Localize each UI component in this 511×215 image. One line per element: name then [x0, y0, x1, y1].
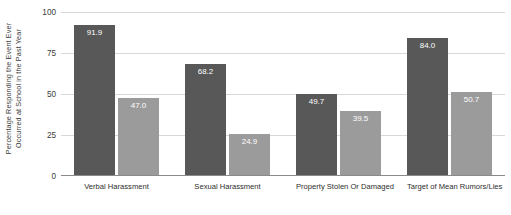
y-tick-50: 50	[30, 90, 56, 99]
x-label-sexual-harassment: Sexual Harassment	[185, 182, 270, 191]
bar-value-label: 47.0	[118, 101, 159, 110]
bar-series-container: 91.9 47.0 68.2 24.9 49.7 39.5	[61, 12, 505, 175]
bar-value-label: 91.9	[74, 28, 115, 37]
y-tick-75: 75	[30, 49, 56, 58]
x-label-verbal-harassment: Verbal Harassment	[74, 182, 159, 191]
bar-chart: Percentage Responding the Event Ever Occ…	[0, 0, 511, 215]
bar-dark-target-of-mean-rumors-lies[interactable]: 84.0	[407, 38, 448, 175]
y-tick-100: 100	[30, 8, 56, 17]
y-tick-0: 0	[30, 172, 56, 181]
y-tick-25: 25	[30, 131, 56, 140]
bar-group-verbal-harassment: 91.9 47.0	[74, 25, 159, 175]
bar-light-property-stolen-or-damaged[interactable]: 39.5	[340, 111, 381, 175]
bar-dark-sexual-harassment[interactable]: 68.2	[185, 64, 226, 175]
y-axis-title-line-2: Occurred at School in the Past Year	[14, 29, 24, 148]
bar-value-label: 24.9	[229, 137, 270, 146]
bar-group-property-stolen-or-damaged: 49.7 39.5	[296, 94, 381, 175]
bar-dark-property-stolen-or-damaged[interactable]: 49.7	[296, 94, 337, 175]
bar-light-verbal-harassment[interactable]: 47.0	[118, 98, 159, 175]
bar-value-label: 84.0	[407, 41, 448, 50]
y-axis-title: Percentage Responding the Event Ever Occ…	[2, 1, 26, 176]
x-label-property-stolen-or-damaged: Property Stolen Or Damaged	[296, 182, 381, 191]
x-axis-line	[61, 175, 505, 176]
bar-dark-verbal-harassment[interactable]: 91.9	[74, 25, 115, 175]
plot-area: 91.9 47.0 68.2 24.9 49.7 39.5	[61, 12, 505, 176]
y-axis-ticks: 100 75 50 25 0	[28, 0, 56, 215]
bar-value-label: 39.5	[340, 114, 381, 123]
y-axis-title-line-1: Percentage Responding the Event Ever	[4, 23, 14, 154]
x-axis-category-labels: Verbal Harassment Sexual Harassment Prop…	[61, 182, 505, 198]
bar-light-sexual-harassment[interactable]: 24.9	[229, 134, 270, 175]
bar-value-label: 49.7	[296, 97, 337, 106]
bar-value-label: 50.7	[451, 95, 492, 104]
x-label-target-of-mean-rumors-lies: Target of Mean Rumors/Lies	[407, 182, 492, 191]
bar-group-target-of-mean-rumors-lies: 84.0 50.7	[407, 38, 492, 175]
bar-group-sexual-harassment: 68.2 24.9	[185, 64, 270, 175]
bar-light-target-of-mean-rumors-lies[interactable]: 50.7	[451, 92, 492, 175]
bar-value-label: 68.2	[185, 67, 226, 76]
